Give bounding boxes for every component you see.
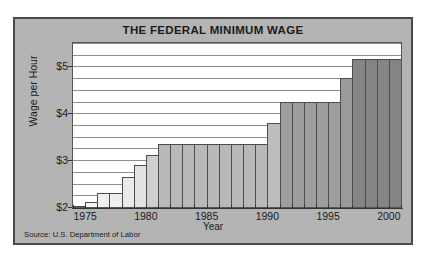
plot-area [72,42,402,208]
y-tick-label: $4 [56,107,68,119]
x-tick-mark [134,205,135,209]
x-tick-mark [146,205,147,209]
bar [158,144,171,207]
x-tick-mark [292,205,293,209]
bar [85,202,98,207]
bar [243,144,256,207]
x-tick-mark [219,205,220,209]
bar [146,155,159,207]
bar [267,123,280,207]
bar [219,144,232,207]
source-note: Source: U.S. Department of Labor [24,230,140,239]
x-tick-mark [182,205,183,209]
y-tick-label: $3 [56,154,68,166]
x-tick-mark [365,205,366,209]
x-tick-mark [109,205,110,209]
x-tick-mark [340,205,341,209]
gridline [73,43,401,44]
y-tick-label: $5 [56,60,68,72]
bar [304,102,317,207]
plot-inner [73,43,401,207]
x-tick-mark [280,205,281,209]
x-tick-mark [194,205,195,209]
x-tick-mark [352,205,353,209]
x-tick-mark [328,205,329,209]
x-tick-mark [377,205,378,209]
page-title: THE FEDERAL MINIMUM WAGE [15,24,411,36]
x-tick-mark [97,205,98,209]
y-axis-ticks: $2$3$4$5 [37,42,68,208]
bar [194,144,207,207]
x-tick-mark [170,205,171,209]
bar [340,78,353,207]
chart-figure: THE FEDERAL MINIMUM WAGE Wage per Hour $… [13,17,413,245]
x-tick-mark [73,205,74,209]
x-tick-mark [316,205,317,209]
x-tick-mark [304,205,305,209]
y-tick-label: $2 [56,201,68,213]
x-tick-mark [85,205,86,209]
x-tick-mark [158,205,159,209]
x-tick-mark [401,205,402,209]
bar [316,102,329,207]
bar [377,59,390,207]
x-tick-mark [122,205,123,209]
x-tick-mark [389,205,390,209]
x-tick-mark [255,205,256,209]
x-tick-mark [243,205,244,209]
gridline [73,55,401,56]
bar [389,59,401,207]
x-tick-mark [231,205,232,209]
bar [122,177,135,207]
x-tick-mark [267,205,268,209]
x-tick-mark [207,205,208,209]
